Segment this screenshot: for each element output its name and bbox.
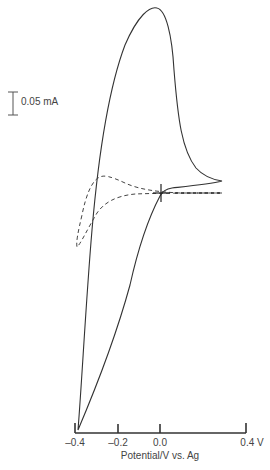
x-axis-label: Potential/V vs. Ag (121, 450, 199, 461)
origin-cross-marker (153, 184, 170, 202)
x-tick-label: –0.2 (108, 437, 127, 448)
x-axis (75, 423, 246, 433)
solid-cv-curve (78, 8, 222, 430)
current-scale-bar (8, 92, 18, 115)
cyclic-voltammogram-plot (0, 0, 270, 470)
dashed-cv-curve (77, 176, 222, 247)
scale-bar-label: 0.05 mA (21, 96, 58, 107)
x-tick-label: 0.4 V (240, 437, 263, 448)
x-tick-label: 0.0 (153, 437, 167, 448)
x-tick-label: –0.4 (65, 437, 84, 448)
